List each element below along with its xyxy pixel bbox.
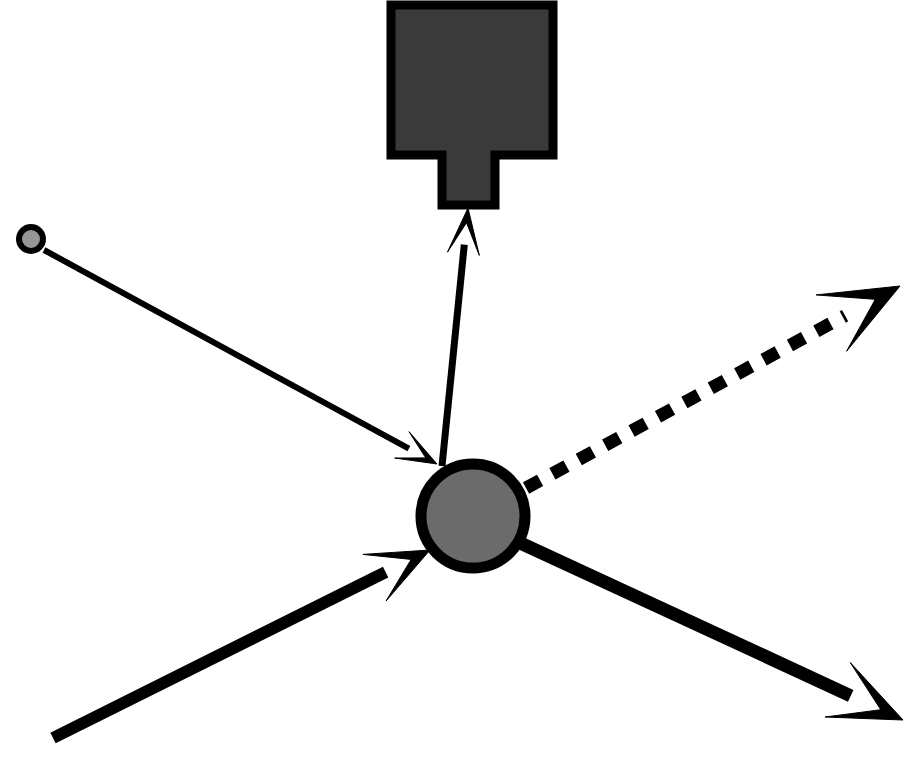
diagram-root [0,0,916,760]
scattering-diagram-svg [0,0,916,760]
target-circle[interactable] [421,464,525,568]
source-circle[interactable] [19,227,43,251]
